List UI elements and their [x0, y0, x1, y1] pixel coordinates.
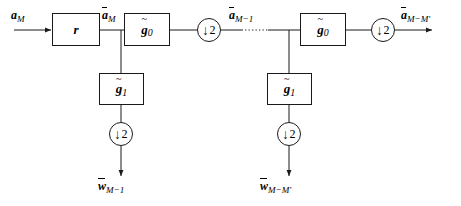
signal-label-a-bar-M: aM [101, 8, 117, 23]
signal-label-a-bar-M-minus-1: aM−1 [228, 8, 254, 23]
signal-abarM1-subscript: M−1 [235, 14, 253, 24]
down-arrow-icon: ↓ [115, 127, 121, 141]
block-g0-left[interactable]: g0 [124, 13, 170, 46]
down-arrow-icon: ↓ [203, 23, 209, 37]
block-g1-right[interactable]: g1 [267, 73, 312, 105]
signal-abarM-subscript: M [108, 14, 116, 24]
signal-wbarMMp-subscript: M−M′ [268, 185, 291, 195]
downsampler-bottom-right-factor: 2 [290, 127, 296, 142]
downsampler-top-left-factor: 2 [210, 23, 216, 38]
downsampler-top-right[interactable]: ↓2 [371, 18, 395, 42]
block-g0-right[interactable]: g0 [300, 13, 346, 46]
block-g1-right-label: g1 [284, 81, 295, 97]
block-g1-left-label: g1 [116, 81, 127, 97]
filter-bank-diagram: r g0 g1 g0 g1 ↓2 ↓2 ↓2 ↓2 aM aM aM−1 aM−… [0, 0, 461, 206]
block-r[interactable]: r [52, 13, 100, 46]
downsampler-top-left[interactable]: ↓2 [197, 18, 221, 42]
downsampler-bottom-left[interactable]: ↓2 [109, 122, 133, 146]
signal-label-input: aM [10, 8, 26, 23]
block-g1-left[interactable]: g1 [99, 73, 144, 105]
down-arrow-icon: ↓ [283, 127, 289, 141]
block-g0-left-label: g0 [141, 22, 152, 38]
down-arrow-icon: ↓ [377, 23, 383, 37]
downsampler-bottom-right[interactable]: ↓2 [277, 122, 301, 146]
signal-wbarM1-subscript: M−1 [106, 185, 124, 195]
signal-input-subscript: M [17, 14, 25, 24]
signal-abarMMp-subscript: M−M′ [407, 14, 430, 24]
block-g0-right-label: g0 [317, 22, 328, 38]
signal-label-a-bar-M-minus-Mprime: aM−M′ [400, 8, 431, 23]
signal-label-w-bar-M-minus-Mprime: wM−M′ [259, 179, 292, 194]
block-r-label: r [73, 22, 78, 38]
downsampler-bottom-left-factor: 2 [122, 127, 128, 142]
signal-label-w-bar-M-minus-1: wM−1 [97, 179, 125, 194]
downsampler-top-right-factor: 2 [384, 23, 390, 38]
